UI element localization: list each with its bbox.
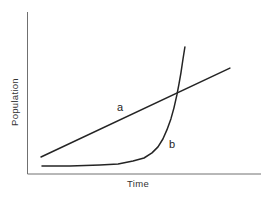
chart-canvas	[0, 0, 269, 198]
series-a-line	[41, 68, 230, 157]
series-b-label: b	[169, 139, 175, 150]
figure: Population Time a b	[0, 0, 269, 198]
y-axis-label: Population	[9, 78, 20, 126]
x-axis-label: Time	[127, 178, 149, 189]
series-b-curve	[42, 47, 185, 166]
series-a-label: a	[117, 101, 123, 112]
